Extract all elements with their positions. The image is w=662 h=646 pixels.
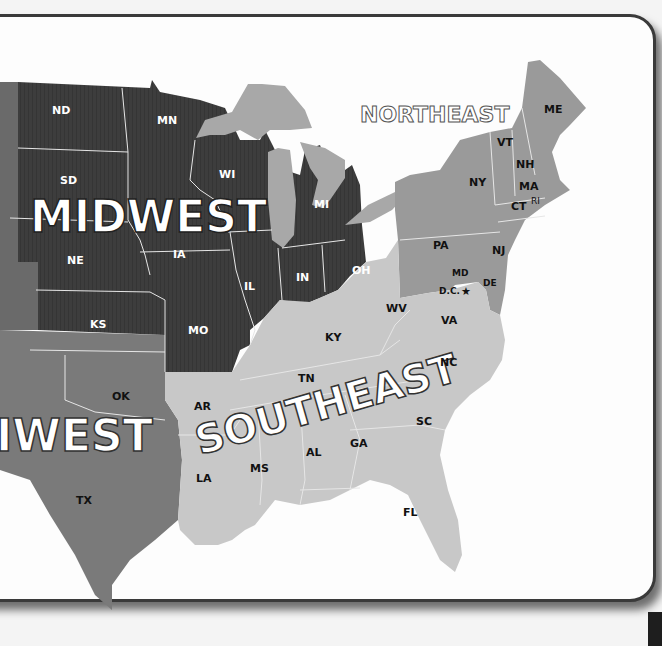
state-label-tx: TX bbox=[76, 494, 93, 507]
state-label-mo: MO bbox=[188, 324, 208, 337]
state-label-nc: NC bbox=[440, 356, 457, 369]
state-label-pa: PA bbox=[433, 239, 449, 252]
state-label-wi: WI bbox=[219, 168, 235, 181]
state-label-nd: ND bbox=[52, 104, 70, 117]
state-label-dc: D.C. bbox=[439, 286, 460, 296]
state-label-ct: CT bbox=[511, 200, 527, 213]
state-label-de: DE bbox=[483, 278, 497, 288]
state-label-in: IN bbox=[296, 271, 309, 284]
region-southwest bbox=[0, 330, 182, 610]
state-label-ne: NE bbox=[67, 254, 84, 267]
state-label-nh: NH bbox=[516, 158, 534, 171]
state-label-wv: WV bbox=[386, 302, 407, 315]
state-label-ma: MA bbox=[519, 180, 539, 193]
region-label-northeast: NORTHEAST bbox=[360, 102, 509, 127]
state-label-nj: NJ bbox=[492, 244, 505, 257]
state-label-sc: SC bbox=[416, 415, 432, 428]
state-label-md: MD bbox=[452, 268, 468, 278]
state-label-ms: MS bbox=[250, 462, 269, 475]
state-label-ny: NY bbox=[469, 176, 487, 189]
state-label-oh: OH bbox=[352, 264, 371, 277]
state-label-al: AL bbox=[306, 446, 322, 459]
region-label-midwest: MIDWEST bbox=[30, 191, 267, 242]
state-label-il: IL bbox=[244, 280, 255, 293]
state-label-me: ME bbox=[544, 103, 562, 116]
state-label-ga: GA bbox=[350, 437, 368, 450]
region-label-southwest: IWEST bbox=[0, 410, 153, 461]
state-label-vt: VT bbox=[497, 136, 514, 149]
state-label-fl: FL bbox=[403, 506, 418, 519]
state-label-mi: MI bbox=[314, 198, 329, 211]
dc-star-icon: ★ bbox=[461, 285, 471, 298]
state-label-ri: RI bbox=[531, 196, 540, 206]
state-label-la: LA bbox=[196, 472, 212, 485]
lake-michigan bbox=[268, 148, 296, 248]
state-label-ar: AR bbox=[194, 400, 212, 413]
state-label-mn: MN bbox=[157, 114, 177, 127]
state-label-ia: IA bbox=[173, 248, 186, 261]
state-label-ok: OK bbox=[112, 390, 130, 403]
state-label-va: VA bbox=[441, 314, 458, 327]
state-label-sd: SD bbox=[60, 174, 77, 187]
us-regions-map: MIDWEST NORTHEAST SOUTHEAST IWEST ND MN … bbox=[0, 0, 662, 646]
state-label-tn: TN bbox=[298, 372, 315, 385]
region-northeast bbox=[395, 60, 586, 315]
state-label-ky: KY bbox=[325, 331, 343, 344]
state-label-ks: KS bbox=[90, 318, 107, 331]
